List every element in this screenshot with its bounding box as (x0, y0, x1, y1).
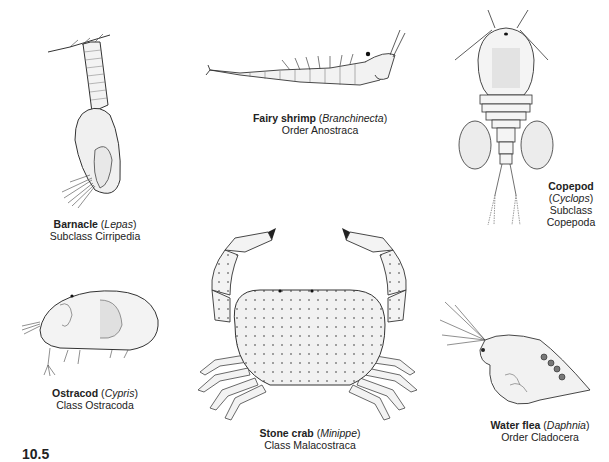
water-flea-common-name: Water flea (491, 419, 541, 431)
water-flea-genus: Daphnia (547, 419, 586, 431)
figure-number: 10.5 (22, 446, 49, 462)
water-flea-label: Water flea (Daphnia) Order Cladocera (480, 419, 600, 443)
water-flea-taxon: Order Cladocera (480, 431, 600, 443)
